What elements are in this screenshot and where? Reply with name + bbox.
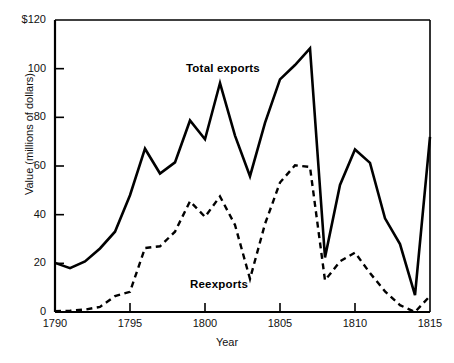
y-tick-label: 20	[0, 256, 46, 268]
chart-container: $120100806040200 17901795180018051810181…	[0, 0, 454, 363]
y-tick-marks	[55, 69, 64, 264]
x-tick-label: 1800	[175, 317, 235, 329]
series-annotation-reexports: Reexports	[190, 278, 248, 290]
x-tick-label: 1805	[250, 317, 310, 329]
x-tick-label: 1815	[400, 317, 454, 329]
series-line-total-exports	[55, 48, 430, 295]
x-tick-label: 1795	[100, 317, 160, 329]
x-axis-title: Year	[0, 336, 454, 348]
x-tick-label: 1790	[25, 317, 85, 329]
plot-area	[0, 0, 454, 363]
x-tick-marks	[130, 303, 355, 312]
series-annotation-total-exports: Total exports	[186, 62, 260, 74]
y-tick-label: $120	[0, 13, 46, 25]
x-tick-label: 1810	[325, 317, 385, 329]
y-tick-label: 0	[0, 305, 46, 317]
y-axis-title: Value (millions of dollars)	[23, 49, 35, 219]
